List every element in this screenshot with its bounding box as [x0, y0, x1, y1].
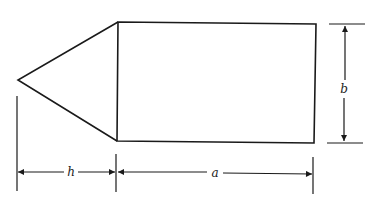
triangle-shape	[18, 22, 118, 141]
label-b: b	[340, 82, 348, 96]
label-a: a	[211, 166, 218, 180]
arrow-a-right	[223, 173, 312, 174]
dimension-b: b	[327, 24, 365, 143]
diagram-canvas: b h a	[0, 0, 375, 203]
diagram-svg: b h a	[0, 0, 375, 203]
label-h: h	[67, 165, 75, 179]
rectangle-shape	[117, 22, 316, 143]
dimension-a: a	[118, 157, 313, 194]
